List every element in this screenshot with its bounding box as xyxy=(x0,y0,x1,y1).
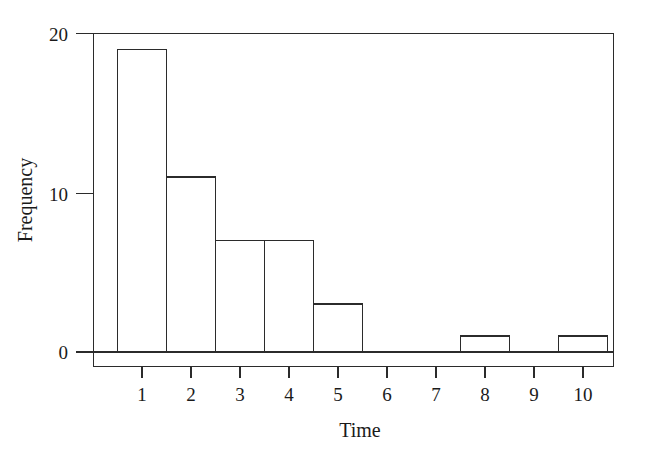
histogram-plot-area: 20 10 0 1 2 3 4 5 6 7 8 9 xyxy=(0,0,645,463)
x-tick-label-1: 1 xyxy=(137,384,147,405)
y-tick-label-0: 0 xyxy=(59,342,69,363)
x-tick-label-5: 5 xyxy=(333,384,343,405)
x-tick-label-6: 6 xyxy=(382,384,392,405)
x-tick-label-3: 3 xyxy=(235,384,245,405)
x-axis-ticks xyxy=(142,367,583,379)
x-tick-label-10: 10 xyxy=(574,384,593,405)
histogram-bar xyxy=(216,241,265,353)
y-axis-ticks xyxy=(76,34,94,353)
x-tick-label-2: 2 xyxy=(186,384,196,405)
histogram-bar xyxy=(461,336,510,352)
histogram-bar xyxy=(265,241,314,353)
x-axis-title: Time xyxy=(339,419,381,441)
histogram-bar xyxy=(559,336,608,352)
histogram-bars xyxy=(118,49,608,352)
histogram-figure: 20 10 0 1 2 3 4 5 6 7 8 9 xyxy=(0,0,645,463)
x-tick-label-9: 9 xyxy=(529,384,539,405)
plot-frame xyxy=(94,34,614,367)
y-tick-label-10: 10 xyxy=(49,184,68,205)
histogram-bar xyxy=(314,304,363,352)
x-axis-tick-labels: 1 2 3 4 5 6 7 8 9 10 xyxy=(137,384,592,405)
x-tick-label-4: 4 xyxy=(284,384,294,405)
y-axis-tick-labels: 20 10 0 xyxy=(49,24,68,363)
x-tick-label-7: 7 xyxy=(431,384,441,405)
x-tick-label-8: 8 xyxy=(480,384,490,405)
histogram-bar xyxy=(167,177,216,352)
y-axis-title: Frequency xyxy=(14,158,37,242)
y-tick-label-20: 20 xyxy=(49,24,68,45)
histogram-bar xyxy=(118,49,167,352)
